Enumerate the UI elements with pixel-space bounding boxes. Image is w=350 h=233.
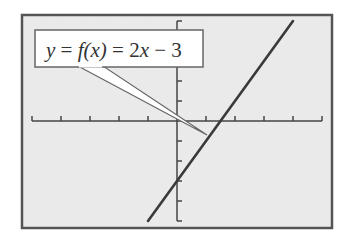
equation-label: y = f(x) = 2x − 3: [44, 38, 182, 62]
chart-figure: y = f(x) = 2x − 3: [0, 0, 350, 233]
